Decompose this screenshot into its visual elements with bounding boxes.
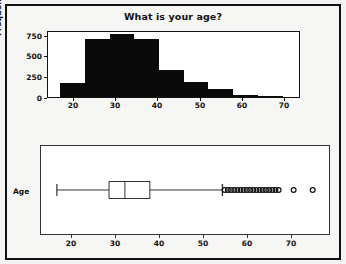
histogram-x-tick-60: 60	[232, 101, 252, 110]
boxplot-category-label: Age	[13, 187, 29, 196]
histogram-y-tick-500: 500	[16, 52, 42, 61]
histogram-x-tick-40: 40	[147, 101, 167, 110]
histogram-bars	[48, 32, 299, 97]
histogram-bar	[208, 89, 233, 97]
histogram-x-tick-30: 30	[105, 101, 125, 110]
boxplot-x-tickmark-50	[203, 235, 204, 238]
histogram-y-tickmark-0	[44, 98, 47, 99]
boxplot-x-tick-50: 50	[193, 239, 213, 248]
boxplot-x-tick-70: 70	[281, 239, 301, 248]
histogram-bar	[233, 95, 258, 97]
histogram-x-tick-50: 50	[190, 101, 210, 110]
histogram-y-tick-0: 0	[16, 94, 42, 103]
histogram-panel: What is your age? Frequency 750 500 250 …	[0, 0, 346, 132]
boxplot-outlier-point	[291, 188, 296, 193]
figure-root: What is your age? Frequency 750 500 250 …	[0, 0, 346, 264]
boxplot-x-tickmark-60	[247, 235, 248, 238]
boxplot-iqr-box	[109, 182, 150, 199]
boxplot-x-tickmark-30	[115, 235, 116, 238]
boxplot-graphic	[41, 146, 329, 234]
boxplot-panel: Age 20 30 40 50 60 70	[0, 132, 346, 264]
histogram-y-axis-label: Frequency	[0, 0, 3, 36]
boxplot-x-tickmark-20	[71, 235, 72, 238]
boxplot-plot-area	[40, 145, 330, 235]
histogram-bar	[159, 70, 184, 97]
histogram-y-tick-250: 250	[16, 73, 42, 82]
boxplot-x-tick-60: 60	[237, 239, 257, 248]
histogram-x-tick-20: 20	[63, 101, 83, 110]
boxplot-x-tickmark-40	[159, 235, 160, 238]
histogram-bar	[60, 83, 85, 97]
histogram-bar	[258, 96, 283, 97]
histogram-bar	[184, 82, 209, 97]
boxplot-outlier-point	[276, 188, 281, 193]
histogram-bar	[110, 34, 135, 97]
histogram-x-tick-70: 70	[274, 101, 294, 110]
boxplot-x-tick-40: 40	[149, 239, 169, 248]
boxplot-x-tick-30: 30	[105, 239, 125, 248]
boxplot-x-tick-20: 20	[61, 239, 81, 248]
histogram-bar	[85, 39, 110, 97]
boxplot-x-tickmark-70	[291, 235, 292, 238]
boxplot-outlier-point	[310, 188, 315, 193]
histogram-y-tick-750: 750	[16, 32, 42, 41]
histogram-bar	[134, 39, 159, 97]
histogram-title: What is your age?	[0, 11, 346, 22]
histogram-plot-area	[47, 31, 300, 98]
